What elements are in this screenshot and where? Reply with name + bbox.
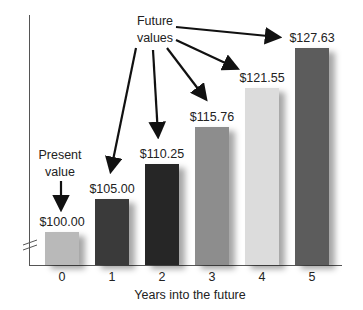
annotation-arrows [0,0,363,310]
x-axis-title: Years into the future [110,288,270,302]
